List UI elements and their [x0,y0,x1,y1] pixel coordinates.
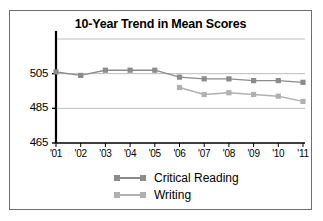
chart-figure: 10-Year Trend in Mean Scores 465485505 '… [9,10,312,210]
data-point-marker [251,78,256,83]
x-tick-label: '01 [43,148,69,159]
data-point-marker [202,92,207,97]
data-point-marker [152,68,157,73]
y-tick-label: 465 [16,136,48,148]
gridlines [55,39,305,108]
x-tick-label: '08 [216,148,242,159]
x-tick-label: '06 [167,148,193,159]
data-point-marker [177,75,182,80]
legend-swatch-critical-reading [114,172,146,183]
legend-item-critical-reading: Critical Reading [114,169,294,186]
legend-label-critical-reading: Critical Reading [146,171,239,185]
legend-marker-icon [140,192,146,198]
data-point-marker [251,92,256,97]
data-point-marker [177,85,182,90]
data-series [53,68,305,104]
y-tick-label: 485 [16,101,48,113]
chart-legend: Critical Reading Writing [114,169,294,203]
legend-marker-icon [114,175,120,181]
legend-label-writing: Writing [146,188,191,202]
x-tick-label: '10 [265,148,291,159]
data-point-marker [202,76,207,81]
data-point-marker [226,76,231,81]
x-tick-label: '04 [117,148,143,159]
data-point-marker [226,90,231,95]
legend-swatch-writing [114,189,146,200]
data-point-marker [53,69,58,74]
data-point-marker [300,80,305,85]
data-point-marker [128,68,133,73]
series-line [180,88,304,102]
legend-marker-icon [114,192,120,198]
x-tick-label: '03 [92,148,118,159]
data-point-marker [78,73,83,78]
y-tick-label: 505 [16,67,48,79]
data-point-marker [103,68,108,73]
x-tick-label: '07 [191,148,217,159]
data-point-marker [276,78,281,83]
data-point-marker [276,94,281,99]
x-tick-label: '09 [241,148,267,159]
x-tick-label: '11 [290,148,316,159]
x-tick-label: '05 [142,148,168,159]
legend-item-writing: Writing [114,186,294,203]
data-point-marker [300,99,305,104]
x-tick-label: '02 [68,148,94,159]
legend-marker-icon [140,175,146,181]
